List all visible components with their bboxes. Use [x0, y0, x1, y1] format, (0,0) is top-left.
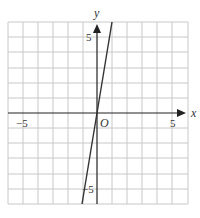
y-axis-arrow-icon	[93, 24, 101, 33]
origin-label: O	[100, 116, 109, 130]
y-tick-label-pos5: 5	[86, 31, 92, 43]
x-axis-arrow-icon	[177, 109, 186, 117]
x-tick-label-pos5: 5	[170, 117, 176, 129]
x-tick-label-neg5: −5	[16, 117, 28, 129]
x-axis-label: x	[190, 106, 197, 120]
y-axis-label: y	[93, 6, 100, 20]
y-tick-label-neg5: −5	[82, 183, 94, 195]
coordinate-graph: y x O −5 5 5 −5	[0, 0, 200, 218]
